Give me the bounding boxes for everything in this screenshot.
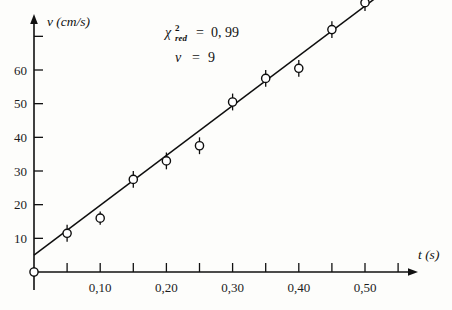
data-point xyxy=(129,171,137,188)
x-tick-label: 0,30 xyxy=(221,280,244,295)
data-point xyxy=(96,211,104,224)
linear-fit-line xyxy=(34,0,382,255)
y-axis-tick-labels: 102030405060 xyxy=(14,63,27,246)
y-axis-ticks xyxy=(34,36,43,238)
y-tick-label: 50 xyxy=(14,96,27,111)
x-axis-title: t (s) xyxy=(418,247,440,262)
nu-value: 9 xyxy=(208,50,215,65)
data-marker xyxy=(195,142,203,150)
chi-symbol: χ xyxy=(163,25,172,40)
data-marker xyxy=(361,0,369,7)
data-marker xyxy=(229,98,237,106)
data-point xyxy=(162,152,170,169)
y-tick-label: 10 xyxy=(14,231,27,246)
chi-subscript: red xyxy=(175,33,187,43)
data-point xyxy=(295,60,303,77)
data-point xyxy=(195,137,203,154)
x-tick-label: 0,40 xyxy=(287,280,310,295)
chi-superscript: 2 xyxy=(175,23,180,33)
x-tick-label: 0,10 xyxy=(89,280,112,295)
y-axis-arrow-icon xyxy=(30,14,38,24)
axes-group xyxy=(30,14,418,290)
nu-symbol: ν xyxy=(175,50,182,65)
chi-value: 0, 99 xyxy=(211,25,239,40)
data-marker xyxy=(129,175,137,183)
data-marker xyxy=(63,229,71,237)
data-marker xyxy=(328,26,336,34)
data-marker xyxy=(96,214,104,222)
data-marker xyxy=(262,74,270,82)
y-tick-label: 20 xyxy=(14,197,27,212)
x-axis-tick-labels: 0,100,200,300,400,50 xyxy=(89,280,377,295)
data-point xyxy=(328,21,336,38)
y-tick-label: 30 xyxy=(14,164,27,179)
x-tick-label: 0,50 xyxy=(354,280,377,295)
x-axis-arrow-icon xyxy=(408,268,418,276)
data-marker xyxy=(30,268,38,276)
data-point xyxy=(30,267,38,277)
nu-annotation: ν = 9 xyxy=(175,50,215,65)
nu-equals: = xyxy=(192,50,200,65)
x-tick-label: 0,20 xyxy=(155,280,178,295)
y-axis-title: v (cm/s) xyxy=(47,14,91,29)
y-tick-label: 40 xyxy=(14,130,27,145)
data-marker xyxy=(295,64,303,72)
chi-squared-annotation: χ 2 red = 0, 99 xyxy=(163,23,239,43)
data-point xyxy=(262,70,270,87)
chi-equals: = xyxy=(196,25,204,40)
y-tick-label: 60 xyxy=(14,63,27,78)
data-point xyxy=(361,0,369,11)
scatter-plot-canvas: 102030405060 0,100,200,300,400,50 v (cm/… xyxy=(0,0,452,310)
plot-figure: 102030405060 0,100,200,300,400,50 v (cm/… xyxy=(0,0,452,310)
x-axis-ticks xyxy=(67,263,398,272)
data-marker xyxy=(162,157,170,165)
